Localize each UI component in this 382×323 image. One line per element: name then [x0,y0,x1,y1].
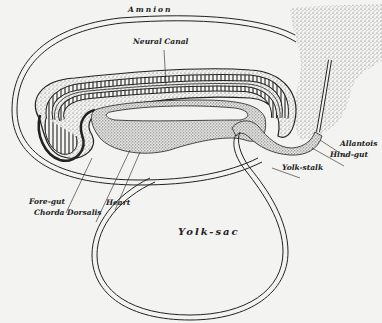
label-chorda-dorsalis: Chorda Dorsalis [34,209,102,217]
label-yolk-stalk: Yolk-stalk [282,164,323,172]
label-amnion: Amnion [128,6,173,14]
body-stalk [290,4,382,140]
label-neural-canal: Neural Canal [133,38,188,46]
label-allantois: Allantois [340,140,377,148]
embryo-diagram: Amnion Neural Canal Allantois Hind-gut Y… [0,0,382,323]
label-hind-gut: Hind-gut [330,151,368,159]
label-yolk-sac: Yolk-sac [178,227,240,237]
diagram-drawing [0,0,382,323]
label-fore-gut: Fore-gut [29,198,65,206]
label-heart: Heart [106,199,130,207]
